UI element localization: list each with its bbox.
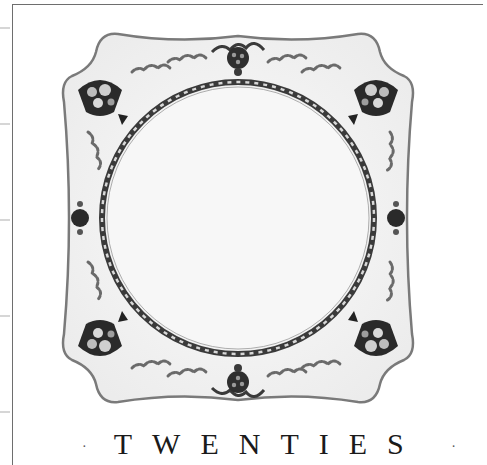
heading-text: TWENTIES (114, 427, 424, 460)
heading-prefix-fragment: · (82, 439, 87, 454)
ruler-tick (0, 411, 10, 413)
ruler-tick (0, 123, 10, 125)
ruler-tick (0, 27, 10, 29)
collection-heading: · TWENTIES · (0, 429, 487, 462)
heading-suffix-fragment: · (451, 439, 456, 454)
ruler-tick (0, 219, 10, 221)
plate-image (58, 22, 418, 414)
ruler-tick (0, 315, 10, 317)
